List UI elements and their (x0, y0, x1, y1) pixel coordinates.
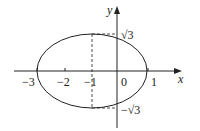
x-axis-label: x (177, 72, 184, 86)
y-axis-label: y (106, 3, 113, 17)
y-axis-arrow-icon (114, 6, 120, 14)
label-0: 0 (121, 75, 127, 89)
label-sqrt3: √3 (121, 28, 134, 42)
label-minus-2: −2 (57, 75, 70, 89)
label-minus-sqrt3: −√3 (121, 103, 140, 117)
ellipse-diagram: −3 −2 −1 0 1 x y √3 −√3 (0, 0, 200, 131)
label-1: 1 (151, 75, 157, 89)
label-minus-1: −1 (84, 75, 97, 89)
label-minus-3: −3 (22, 75, 35, 89)
